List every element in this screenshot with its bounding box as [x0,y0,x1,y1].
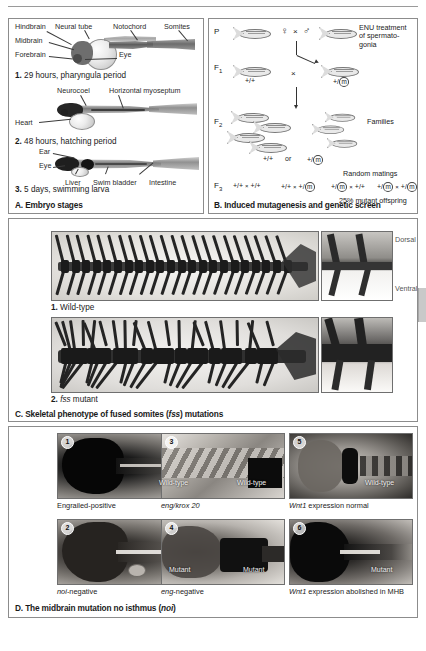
stage-2-caption: 2. 48 hours, hatching period [15,137,117,146]
stage-3-text: 5 days, swimming larva [22,185,109,194]
fish-f2-f [312,124,344,133]
radiograph-wildtype [51,231,319,301]
f3-cross-2: +/+ × +/m [281,182,315,192]
caption-2-post: -negative [67,587,97,596]
genotype-f1-mutant: +/m [333,77,349,87]
genotype-f2-mutant: +/m [307,155,323,165]
label-horizontal-myoseptum: Horizontal myoseptum [109,86,181,95]
label-ear: Ear [39,147,50,156]
f3-cross-4: +/m × +/m [377,182,417,192]
top-rule [8,6,418,7]
generation-f3-sub: 3 [219,186,222,192]
panel-c-caption-pre: C. Skeletal phenotype of fused somites ( [15,409,169,419]
page-edge-tab [418,288,426,322]
figure-page: Hindbrain Neural tube Notochord Somites … [0,0,426,651]
label-ventral: Ventral [395,284,417,293]
arrow-p-to-f1-vertical [296,41,297,55]
leader-forebrain [49,56,73,60]
cross-symbol-f1: × [291,69,296,78]
caption-2-gene: noi [57,587,67,596]
row-2-num: 2. [51,395,58,404]
panel-c-caption-post: ) mutations [180,409,223,419]
stage-3-caption: 3. 5 days, swimming larva [15,185,109,194]
panel-d-caption-1: Engrailed-positive [57,501,116,510]
micrograph-6-overlay: Mutant [371,566,414,616]
micrograph-2-number: 2 [61,522,74,535]
leader-neural-tube [84,30,90,39]
micrograph-4-number: 4 [165,522,178,535]
radiograph-fss-mutant [51,317,319,393]
random-matings-label: Random matings [343,169,397,178]
embryo-48h-drawing: Neurocoel Horizontal myoseptum Heart [9,83,205,145]
fish-f2-e [325,112,355,121]
generation-f1-sub: 1 [219,68,222,74]
row-1-text: Wild-type [58,303,94,312]
genotype-f1-wildtype: +/+ [245,77,255,84]
label-dorsal: Dorsal [395,235,416,244]
generation-f2: F2 [214,117,222,128]
generation-f1: F1 [214,63,222,74]
stage-1-num: 1. [15,71,22,80]
arrowhead-f1-to-f2 [294,105,298,109]
label-forebrain: Forebrain [15,50,46,59]
fish-f1-wildtype [233,65,271,76]
fish-f2-g [327,138,357,147]
stage-1-text: 29 hours, pharyngula period [22,71,126,80]
arrow-p-to-f1-diagonal [297,55,316,64]
micrograph-1-number: 1 [61,436,74,449]
enu-treatment-note: ENU treatment of spermato-gonia [359,24,411,49]
f3-cross-1: +/+ × +/+ [233,182,261,189]
generation-f2-sub: 2 [219,122,222,128]
label-somites: Somites [164,22,190,31]
row-1-num: 1. [51,303,58,312]
panel-c-row-1-label: 1. Wild-type [51,303,94,312]
panel-c-caption: C. Skeletal phenotype of fused somites (… [15,409,223,419]
stage-1-caption: 1. 29 hours, pharyngula period [15,71,126,80]
panel-d-noi-mutation: 1 Wild-type Engrailed-positive 2 Mutant … [8,426,418,618]
row-2-gene: fss [60,395,70,404]
fish-p-female [233,27,271,38]
fish-p-male [319,27,357,38]
label-midbrain: Midbrain [15,36,43,45]
families-label: Families [367,117,394,126]
panel-d-caption-2: noi-negative [57,587,97,596]
label-eye: Eye [119,50,131,59]
micrograph-6-number: 6 [293,522,306,535]
label-hindbrain: Hindbrain [15,22,46,31]
caption-1-plain: Engrailed-positive [57,501,116,510]
fish-f1-mutant [321,65,359,76]
micrograph-5-number: 5 [293,436,306,449]
leader-neurocoel [80,95,87,106]
fish-f2-d [249,141,287,152]
label-eye-larva: Eye [39,161,51,170]
genotype-f2-wildtype: +/+ [263,155,273,162]
panel-c-caption-gene: fss [169,409,181,419]
panel-a-caption: A. Embryo stages [15,200,83,210]
closeup-fss-mutant [321,317,393,393]
panel-b-caption: B. Induced mutagenesis and genetic scree… [214,200,381,210]
panel-d-caption: D. The midbrain mutation no isthmus (noi… [15,603,176,613]
arrowhead-p-to-f1 [314,59,319,64]
stage-2-num: 2. [15,137,22,146]
panel-d-caption-pre: D. The midbrain mutation no isthmus ( [15,603,161,613]
male-symbol: ♂ [303,25,311,36]
generation-p: P [214,27,219,36]
panel-c-skeletal-phenotype: Dorsal Ventral 1. Wild-type 2. fss mutan… [8,218,418,422]
panel-a-embryo-stages: Hindbrain Neural tube Notochord Somites … [8,18,204,214]
panel-c-row-2-label: 2. fss mutant [51,395,98,404]
label-neurocoel: Neurocoel [57,86,90,95]
female-symbol: ♀ [281,25,289,36]
label-heart: Heart [15,118,33,127]
generation-p-label: P [214,27,219,36]
label-intestine: Intestine [149,178,176,187]
label-neural-tube: Neural tube [55,22,92,31]
genotype-f2-or: or [285,155,291,162]
f3-cross-3: +/m × +/+ [331,182,365,192]
cross-symbol-p: × [293,27,298,36]
stage-3-num: 3. [15,185,22,194]
closeup-wildtype [321,231,393,301]
row-2-suffix: mutant [71,395,98,404]
panel-b-genetic-screen: P F1 F2 F3 ♀ × ♂ ENU treatment of sperma… [208,18,418,214]
stage-2-text: 48 hours, hatching period [22,137,117,146]
generation-f3: F3 [214,181,222,192]
